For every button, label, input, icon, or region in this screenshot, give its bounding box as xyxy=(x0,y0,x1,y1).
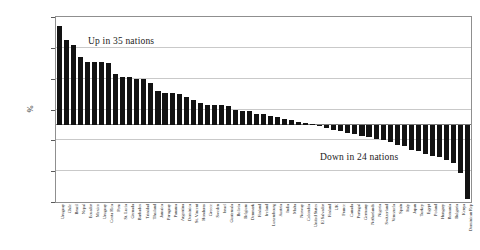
x-tick-label: Switzerland xyxy=(385,204,390,224)
bar xyxy=(191,100,196,125)
bar xyxy=(71,45,76,125)
bar xyxy=(177,94,182,125)
bar xyxy=(85,62,90,125)
x-tick-label: Hungary xyxy=(441,204,446,219)
bar xyxy=(127,77,132,125)
bar xyxy=(261,114,266,125)
bar xyxy=(57,26,62,125)
bar xyxy=(451,125,456,164)
y-tick-mark xyxy=(51,171,55,172)
bar xyxy=(254,114,259,125)
bar xyxy=(226,106,231,125)
x-tick-label: Israel xyxy=(223,204,228,213)
x-tick-label: Venezuela xyxy=(392,204,397,222)
bar xyxy=(416,125,421,151)
x-tick-label: Uruguay xyxy=(103,204,108,219)
bar xyxy=(282,119,287,125)
bar xyxy=(458,125,463,173)
x-tick-label: Netherlands xyxy=(371,204,376,225)
x-tick-label: Bulgaria xyxy=(455,204,460,219)
annotation-down: Down in 24 nations xyxy=(320,152,398,162)
bar xyxy=(331,125,336,130)
x-tick-label: Belgium xyxy=(244,204,249,219)
x-tick-label: Portugal xyxy=(357,204,362,218)
x-tick-label: Japan xyxy=(413,204,418,214)
x-tick-label: Peru xyxy=(117,204,122,212)
x-tick-label: Costa Rica xyxy=(110,204,115,223)
bar xyxy=(78,57,83,125)
bar xyxy=(338,125,343,131)
x-tick-label: UK xyxy=(335,204,340,210)
x-tick-label: Austria xyxy=(279,204,284,217)
bar xyxy=(289,120,294,125)
bar xyxy=(247,111,252,125)
x-tick-label: Canada xyxy=(350,204,355,217)
x-tick-label: Dominica xyxy=(188,204,193,221)
bar xyxy=(268,116,273,125)
x-tick-label: Guatemala xyxy=(230,204,235,223)
x-tick-label: Romania xyxy=(448,204,453,220)
bar xyxy=(381,125,386,140)
bar xyxy=(275,117,280,125)
x-tick-label: Turkey xyxy=(420,204,425,216)
bar xyxy=(120,77,125,125)
x-tick-label: Ireland xyxy=(265,204,270,216)
bar xyxy=(402,125,407,147)
bar xyxy=(148,83,153,125)
x-tick-label: Jamaica xyxy=(160,204,165,218)
x-tick-label: France xyxy=(342,204,347,216)
bar xyxy=(219,105,224,125)
bar xyxy=(162,93,167,125)
bar xyxy=(141,79,146,125)
bar xyxy=(64,40,69,125)
x-tick-label: Panama xyxy=(174,204,179,218)
x-tick-label: Germany xyxy=(364,204,369,220)
x-tick-label: India xyxy=(286,204,291,213)
bar xyxy=(205,105,210,125)
x-tick-label: Malta xyxy=(293,204,298,214)
bar xyxy=(359,125,364,136)
bar xyxy=(345,125,350,133)
x-tick-label: Nepal xyxy=(82,204,87,214)
bar xyxy=(352,125,357,134)
bar xyxy=(296,122,301,125)
bar xyxy=(240,111,245,125)
x-tick-label: Ecuador xyxy=(89,204,94,218)
bar xyxy=(423,125,428,154)
x-tick-label: United States xyxy=(314,204,319,227)
bar xyxy=(374,125,379,139)
x-tick-label: Brazil xyxy=(75,204,80,214)
x-tick-label: Kenya xyxy=(462,204,467,215)
x-tick-label: Luxembourg xyxy=(272,204,277,226)
x-tick-label: Uruguay xyxy=(61,204,66,219)
x-tick-label: Bolivia xyxy=(237,204,242,217)
x-tick-label: Italy xyxy=(406,204,411,212)
bar xyxy=(170,93,175,125)
x-tick-label: Grenada xyxy=(131,204,136,219)
bar xyxy=(113,74,118,125)
x-tick-label: Norway xyxy=(300,204,305,218)
annotation-up: Up in 35 nations xyxy=(88,36,154,46)
x-tick-label: Greece xyxy=(209,204,214,216)
bar xyxy=(317,125,322,127)
bar xyxy=(324,125,329,128)
x-tick-label: Thailand xyxy=(153,204,158,219)
x-tick-label: Chile xyxy=(68,204,73,213)
bar xyxy=(388,125,393,142)
y-tick-mark xyxy=(51,140,55,141)
x-tick-label: Poland xyxy=(434,204,439,216)
x-tick-label: Spain xyxy=(399,204,404,214)
bar xyxy=(134,79,139,125)
x-tick-label: Mexico xyxy=(96,204,101,217)
bar xyxy=(310,124,315,125)
x-tick-label: Sweden xyxy=(216,204,221,218)
x-tick-label: Finland xyxy=(328,204,333,217)
bar xyxy=(409,125,414,150)
x-tick-label: Dominican Rep xyxy=(469,204,474,231)
x-axis-category-labels: UruguayChileBrazilNepalEcuadorMexicoUrug… xyxy=(56,204,471,250)
bar xyxy=(444,125,449,160)
bar xyxy=(212,105,217,125)
x-tick-label: Trinidad xyxy=(146,204,151,219)
x-tick-label: Denmark xyxy=(251,204,256,220)
bar xyxy=(155,91,160,125)
